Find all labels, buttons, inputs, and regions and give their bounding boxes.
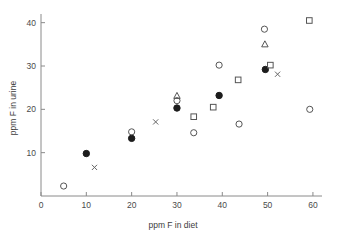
x-tick-label: 40 <box>218 200 228 210</box>
data-point-open-square <box>268 62 274 68</box>
y-tick-label: 30 <box>27 61 37 71</box>
y-axis-ticks: 10203040 <box>27 18 45 158</box>
data-point-filled-circle <box>174 105 180 111</box>
x-axis-ticks: 0102030405060 <box>39 192 318 210</box>
data-point-filled-circle <box>216 92 222 98</box>
x-tick-label: 50 <box>263 200 273 210</box>
y-tick-label: 10 <box>27 148 37 158</box>
data-points-group <box>61 18 313 189</box>
data-point-filled-circle <box>128 135 134 141</box>
x-tick-label: 10 <box>82 200 92 210</box>
x-tick-label: 30 <box>172 200 182 210</box>
data-point-open-square <box>210 104 216 110</box>
data-point-open-circle <box>191 130 197 136</box>
y-tick-label: 40 <box>27 18 37 28</box>
x-tick-label: 20 <box>127 200 137 210</box>
plot-canvas: 0102030405060 10203040 ppm F in diet ppm… <box>0 0 346 235</box>
data-point-open-circle <box>307 106 313 112</box>
data-point-cross <box>275 72 280 77</box>
axes-group <box>41 14 322 196</box>
data-point-cross <box>92 165 97 170</box>
data-point-open-circle <box>236 121 242 127</box>
data-point-open-triangle <box>262 41 268 47</box>
data-point-open-circle <box>216 62 222 68</box>
data-point-filled-circle <box>83 150 89 156</box>
x-tick-label: 0 <box>39 200 44 210</box>
x-tick-label: 60 <box>308 200 318 210</box>
y-axis-title: ppm F in urine <box>8 81 18 136</box>
data-point-open-square <box>235 77 241 83</box>
data-point-open-circle <box>129 129 135 135</box>
data-point-cross <box>153 119 158 124</box>
y-tick-label: 20 <box>27 104 37 114</box>
x-axis-title: ppm F in diet <box>148 220 198 230</box>
data-point-open-circle <box>61 183 67 189</box>
data-point-open-circle <box>261 26 267 32</box>
data-point-open-square <box>307 18 313 24</box>
data-point-open-square <box>191 114 197 120</box>
scatter-plot-figure: 0102030405060 10203040 ppm F in diet ppm… <box>0 0 346 235</box>
